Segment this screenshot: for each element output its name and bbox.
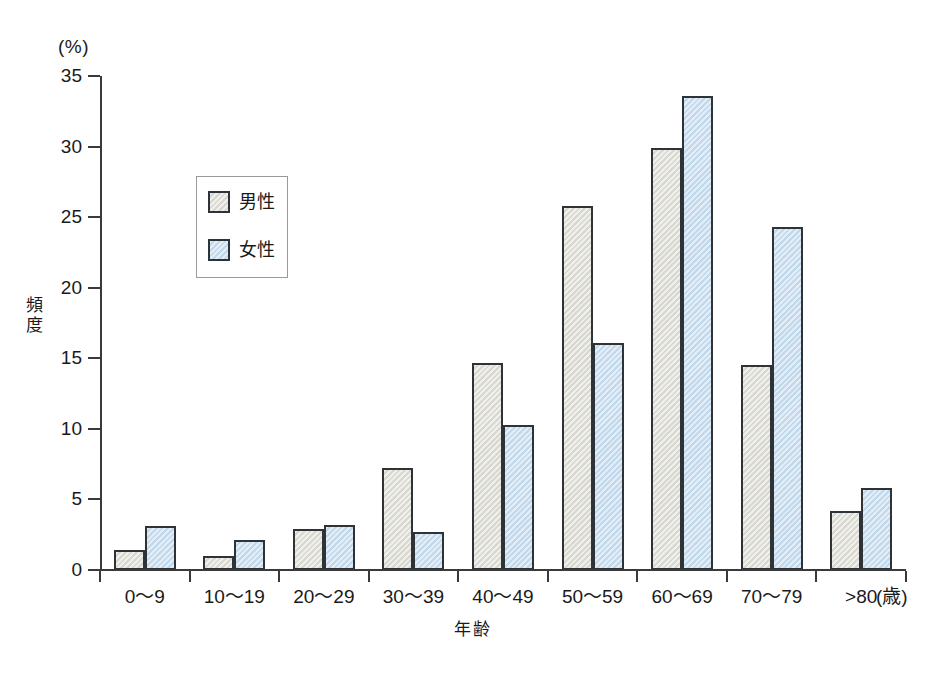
- bar-female-2: [324, 525, 355, 570]
- bar-male-1: [203, 556, 234, 570]
- x-axis-tick-label: 70〜79: [727, 586, 817, 608]
- bar-female-0: [145, 526, 176, 570]
- y-axis-tick: [88, 216, 100, 218]
- y-axis-tick: [88, 357, 100, 359]
- x-axis-tick: [99, 571, 101, 582]
- legend-entry-male: 男性: [208, 191, 275, 213]
- y-axis-tick-label: 25: [40, 207, 82, 226]
- legend-entry-female: 女性: [208, 239, 275, 261]
- bar-female-5: [593, 343, 624, 570]
- x-axis-title: 年齢: [0, 615, 946, 640]
- y-axis-unit-label: (%): [58, 36, 89, 58]
- y-axis-tick: [88, 498, 100, 500]
- legend-swatch-male-icon: [208, 191, 230, 213]
- bar-male-3: [382, 468, 413, 570]
- y-axis-tick-label: 30: [40, 137, 82, 156]
- x-axis-tick-label: 20〜29: [279, 586, 369, 608]
- x-axis-tick: [547, 571, 549, 582]
- x-axis-tick: [278, 571, 280, 582]
- y-axis-tick: [88, 146, 100, 148]
- x-axis-tick-label: 10〜19: [190, 586, 280, 608]
- bar-chart: (%) 頻 度 05101520253035 0〜910〜1920〜2930〜3…: [0, 0, 946, 673]
- bar-male-7: [741, 365, 772, 570]
- y-axis-tick-label: 35: [40, 66, 82, 85]
- legend-label-female: 女性: [239, 241, 275, 259]
- y-axis-tick-label: 10: [40, 419, 82, 438]
- y-axis-title: 頻 度: [22, 296, 46, 336]
- x-axis-tick-label: 60〜69: [637, 586, 727, 608]
- x-axis-tick-label: 50〜59: [548, 586, 638, 608]
- bar-male-0: [114, 550, 145, 570]
- y-axis-tick: [88, 287, 100, 289]
- x-axis-tick: [905, 571, 907, 582]
- bar-female-3: [413, 532, 444, 570]
- bar-male-4: [472, 363, 503, 570]
- x-axis-tick-label: 0〜9: [100, 586, 190, 608]
- x-axis-tick-label: 40〜49: [458, 586, 548, 608]
- x-axis-tick: [815, 571, 817, 582]
- x-axis-tick: [726, 571, 728, 582]
- legend: 男性 女性: [196, 176, 288, 278]
- x-axis-tick: [457, 571, 459, 582]
- legend-label-male: 男性: [239, 193, 275, 211]
- bar-male-2: [293, 529, 324, 570]
- legend-swatch-female-icon: [208, 239, 230, 261]
- x-axis-unit-label: (歳): [876, 586, 908, 608]
- bar-male-8: [830, 511, 861, 570]
- bar-male-6: [651, 148, 682, 570]
- y-axis-tick-label: 0: [40, 560, 82, 579]
- bar-female-6: [682, 96, 713, 570]
- y-axis-tick-label: 15: [40, 348, 82, 367]
- x-axis-tick: [368, 571, 370, 582]
- bar-female-4: [503, 425, 534, 570]
- y-axis-tick-label: 20: [40, 278, 82, 297]
- bar-female-8: [861, 488, 892, 570]
- x-axis-line: [100, 569, 906, 571]
- plot-area: [100, 76, 906, 570]
- y-axis-tick: [88, 75, 100, 77]
- bar-male-5: [562, 206, 593, 570]
- y-axis-tick-label: 5: [40, 489, 82, 508]
- x-axis-tick: [189, 571, 191, 582]
- x-axis-tick-label: 30〜39: [369, 586, 459, 608]
- y-axis-tick: [88, 428, 100, 430]
- bar-female-1: [234, 540, 265, 570]
- y-axis-title-char-1: 頻: [22, 296, 46, 316]
- x-axis-tick: [636, 571, 638, 582]
- y-axis-title-char-2: 度: [22, 316, 46, 336]
- bar-female-7: [772, 227, 803, 570]
